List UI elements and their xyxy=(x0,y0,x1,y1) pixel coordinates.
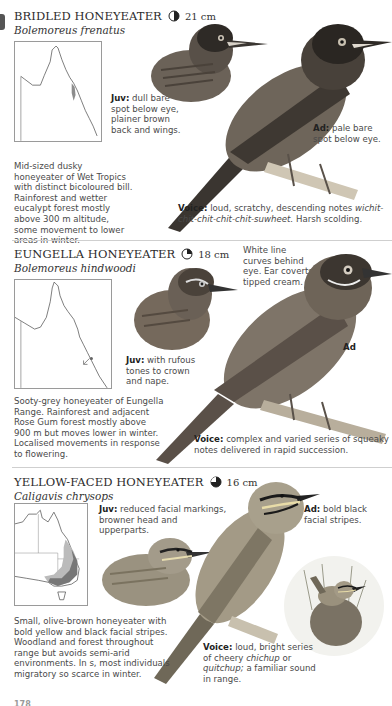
queensland-outline-map xyxy=(15,42,101,141)
scientific-name: Bolemoreus hindwoodi xyxy=(14,262,136,274)
species-entry-eungella-honeyeater: EUNGELLA HONEYEATER 18 cm Bolemoreus hin… xyxy=(0,238,392,466)
range-map xyxy=(14,503,88,606)
adult-note: Ad: bold black facial stripes. xyxy=(304,504,390,525)
adult-label: Ad xyxy=(343,342,356,353)
species-description: Mid-sized dusky honeyeater of Wet Tropic… xyxy=(14,161,134,246)
species-entry-bridled-honeyeater: BRIDLED HONEYEATER 21 cm Bolemoreus fren… xyxy=(0,0,392,237)
adult-note: Ad: pale bare spot below eye. xyxy=(313,123,392,144)
page-number: 178 xyxy=(14,700,31,706)
queensland-outline-map xyxy=(15,280,111,388)
range-map xyxy=(14,279,112,389)
range-map xyxy=(14,41,102,142)
species-entry-yellow-faced-honeyeater: YELLOW-FACED HONEYEATER 16 cm Caligavis … xyxy=(0,466,392,706)
australia-outline-map xyxy=(15,504,87,605)
scientific-name: Caligavis chrysops xyxy=(14,490,113,502)
species-description: Sooty-grey honeyeater of Eungella Range.… xyxy=(14,396,164,460)
species-description: Small, olive-brown honeyeater with bold … xyxy=(14,616,172,680)
voice-note: Voice: loud, bright series of cheery chi… xyxy=(203,642,323,684)
voice-note: Voice: complex and varied series of sque… xyxy=(194,434,392,455)
voice-note: Voice: loud, scratchy, descending notes … xyxy=(178,203,390,224)
scientific-name: Bolemoreus frenatus xyxy=(14,24,125,36)
field-guide-page: BRIDLED HONEYEATER 21 cm Bolemoreus fren… xyxy=(0,0,392,706)
adult-bird-illustration xyxy=(150,244,392,464)
